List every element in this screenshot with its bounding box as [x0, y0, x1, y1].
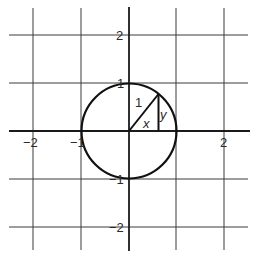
- x-tick-label-neg1: −1: [70, 135, 85, 150]
- unit-circle-diagram: 2 1 −1 −2 −2 −1 2 1 x y: [0, 0, 258, 263]
- hypotenuse-label: 1: [135, 95, 142, 110]
- y-tick-label-neg2: −2: [109, 220, 124, 235]
- x-tick-label-neg2: −2: [23, 135, 38, 150]
- y-tick-label-2: 2: [116, 28, 123, 43]
- y-tick-label-neg1: −1: [109, 172, 124, 187]
- y-tick-label-1: 1: [117, 76, 124, 91]
- base-label-x: x: [142, 116, 150, 131]
- height-label-y: y: [159, 107, 168, 122]
- x-tick-label-2: 2: [220, 135, 227, 150]
